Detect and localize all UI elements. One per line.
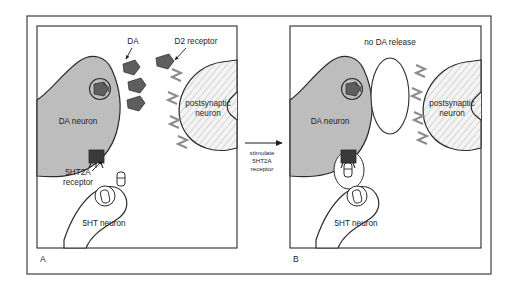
postsynaptic-neuron-label-b-l1: postsynaptic — [429, 99, 475, 108]
panel-label-a: A — [40, 254, 46, 264]
ht2a-receptor-label-a-l1: 5HT2A — [65, 168, 91, 177]
da-neuron-label-b: DA neuron — [311, 117, 350, 126]
serotonin-bound-capsule-b — [344, 163, 352, 177]
panel-label-b: B — [293, 254, 299, 264]
empty-synapse-oval-b — [371, 58, 409, 134]
transition-label-line1: stimulate — [250, 149, 275, 156]
transition-label-line2: 5HT2A — [252, 157, 272, 164]
diagram-svg: DA D2 receptor postsynaptic neuron DA ne… — [0, 0, 513, 292]
postsynaptic-neuron-label-a-l2: neuron — [195, 109, 221, 118]
transition-label-line3: receptor — [251, 165, 274, 172]
serotonin-capsule-a — [117, 172, 125, 186]
no-da-release-label-b: no DA release — [364, 38, 416, 47]
d2-receptor-label-a: D2 receptor — [175, 37, 218, 46]
panel-b: no DA release postsynaptic neuron DA neu… — [290, 26, 481, 264]
panel-a: DA D2 receptor postsynaptic neuron DA ne… — [37, 26, 237, 264]
ht-neuron-label-b: 5HT neuron — [334, 219, 378, 228]
postsynaptic-neuron-label-a-l1: postsynaptic — [185, 99, 231, 108]
serotonin-molecule-free-a — [117, 172, 125, 186]
postsynaptic-neuron-label-b-l2: neuron — [439, 109, 465, 118]
ht2a-receptor-label-a-l2: receptor — [63, 178, 93, 187]
da-label-a: DA — [127, 37, 139, 46]
figure-container: DA D2 receptor postsynaptic neuron DA ne… — [0, 0, 513, 292]
ht-neuron-label-a: 5HT neuron — [82, 219, 126, 228]
da-neuron-label-a: DA neuron — [59, 117, 98, 126]
ht2a-receptor-body-b — [341, 150, 356, 163]
